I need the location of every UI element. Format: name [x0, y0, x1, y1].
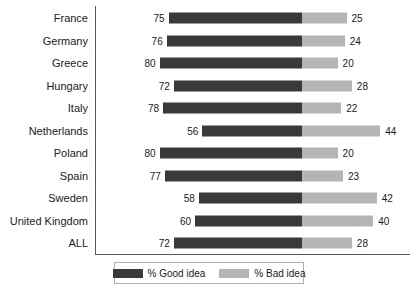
bar-row: Netherlands5644 [0, 120, 418, 143]
bar-segment-good [169, 13, 303, 24]
value-label-bad: 20 [343, 58, 354, 69]
bar-segment-bad [302, 125, 380, 136]
bar-segment-bad [302, 13, 347, 24]
bar-track: 7525 [96, 7, 414, 30]
bar-track: 7228 [96, 232, 414, 255]
legend-item: % Good idea [113, 268, 206, 279]
bar-segment-good [174, 80, 302, 91]
value-label-bad: 28 [357, 80, 368, 91]
legend-item: % Bad idea [219, 268, 305, 279]
value-label-good: 76 [145, 35, 163, 46]
bar-row: ALL7228 [0, 232, 418, 255]
value-label-good: 58 [177, 193, 195, 204]
bar-segment-bad [302, 238, 352, 249]
bar-track: 7723 [96, 165, 414, 188]
bar-segment-good [199, 193, 302, 204]
legend-swatch-good-icon [113, 269, 143, 278]
bar-segment-bad [302, 80, 352, 91]
bar-segment-good [174, 238, 302, 249]
bar-segment-good [167, 35, 302, 46]
bar-segment-good [163, 103, 302, 114]
bar-segment-bad [302, 103, 341, 114]
bar-row: Poland8020 [0, 142, 418, 165]
bar-track: 6040 [96, 210, 414, 233]
bar-segment-good [195, 215, 302, 226]
value-label-bad: 28 [357, 238, 368, 249]
bar-segment-good [160, 148, 302, 159]
value-label-good: 75 [147, 13, 165, 24]
bar-segment-good [202, 125, 302, 136]
bar-row: Sweden5842 [0, 187, 418, 210]
chart-legend: % Good idea% Bad idea [114, 262, 304, 284]
value-label-good: 80 [138, 58, 156, 69]
bar-track: 7624 [96, 30, 414, 53]
value-label-bad: 20 [343, 148, 354, 159]
value-label-good: 72 [152, 80, 170, 91]
bar-chart: France7525Germany7624Greece8020Hungary72… [0, 0, 418, 294]
bar-segment-bad [302, 58, 338, 69]
value-label-bad: 25 [352, 13, 363, 24]
category-label: Spain [0, 170, 88, 182]
bar-row: Spain7723 [0, 165, 418, 188]
value-label-bad: 44 [385, 125, 396, 136]
category-label: Italy [0, 102, 88, 114]
category-label: Poland [0, 147, 88, 159]
category-label: Hungary [0, 80, 88, 92]
bar-row: France7525 [0, 7, 418, 30]
value-label-bad: 22 [346, 103, 357, 114]
bar-row: Germany7624 [0, 30, 418, 53]
category-label: Germany [0, 35, 88, 47]
value-label-bad: 40 [378, 215, 389, 226]
bar-segment-bad [302, 35, 345, 46]
bar-track: 8020 [96, 142, 414, 165]
category-label: ALL [0, 237, 88, 249]
bar-row: Hungary7228 [0, 75, 418, 98]
legend-swatch-bad-icon [219, 269, 249, 278]
value-label-bad: 24 [350, 35, 361, 46]
value-label-good: 60 [173, 215, 191, 226]
value-label-good: 78 [141, 103, 159, 114]
bar-segment-good [160, 58, 302, 69]
value-label-bad: 42 [382, 193, 393, 204]
plot-area: France7525Germany7624Greece8020Hungary72… [0, 4, 418, 256]
bar-track: 7228 [96, 75, 414, 98]
category-label: Greece [0, 57, 88, 69]
bar-track: 5644 [96, 120, 414, 143]
bar-segment-good [165, 170, 302, 181]
bar-track: 5842 [96, 187, 414, 210]
bar-segment-bad [302, 193, 377, 204]
category-label: United Kingdom [0, 215, 88, 227]
category-label: Sweden [0, 192, 88, 204]
bar-track: 8020 [96, 52, 414, 75]
legend-label: % Good idea [148, 268, 206, 279]
value-label-bad: 23 [348, 170, 359, 181]
bar-track: 7822 [96, 97, 414, 120]
bar-segment-bad [302, 148, 338, 159]
bar-segment-bad [302, 170, 343, 181]
bar-row: Italy7822 [0, 97, 418, 120]
bar-row: Greece8020 [0, 52, 418, 75]
value-label-good: 77 [143, 170, 161, 181]
category-label: Netherlands [0, 125, 88, 137]
value-label-good: 80 [138, 148, 156, 159]
value-label-good: 56 [180, 125, 198, 136]
bar-segment-bad [302, 215, 373, 226]
value-label-good: 72 [152, 238, 170, 249]
bar-row: United Kingdom6040 [0, 210, 418, 233]
legend-label: % Bad idea [254, 268, 305, 279]
category-label: France [0, 12, 88, 24]
